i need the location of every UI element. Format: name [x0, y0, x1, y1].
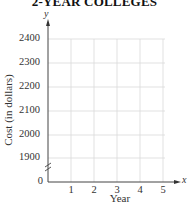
vertical-gridlines	[71, 39, 163, 182]
y-axis-arrow-icon	[46, 19, 50, 26]
x-axis-letter: x	[182, 174, 186, 185]
x-axis-arrow-icon	[174, 180, 181, 184]
x-axis-title: Year	[90, 192, 150, 204]
y-axis-letter: y	[44, 8, 48, 19]
y-axis-title: Cost (in dollars)	[2, 60, 14, 160]
y-axis	[46, 19, 50, 182]
origin-label: 0	[0, 175, 43, 186]
y-tick-label: 2400	[0, 32, 40, 43]
x-tick-label: 1	[64, 184, 78, 195]
horizontal-gridlines	[48, 39, 165, 158]
x-tick-label: 5	[156, 184, 170, 195]
